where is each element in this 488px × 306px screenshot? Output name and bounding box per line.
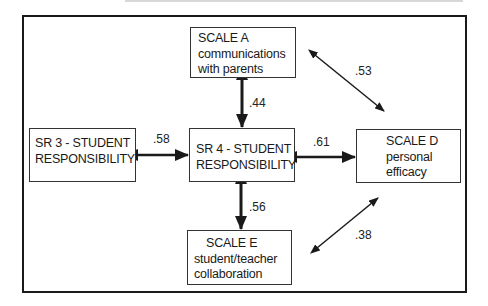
node-scale-d: SCALE D personal efficacy xyxy=(356,129,461,183)
edge-label-sr4-d: .61 xyxy=(313,135,330,149)
node-scale-a: SCALE A communications with parents xyxy=(190,27,296,78)
node-line: with parents xyxy=(198,62,295,78)
arrow-a-d xyxy=(315,55,384,111)
edge-label-e-d: .38 xyxy=(355,228,372,242)
edge-label-sr3-sr4: .58 xyxy=(153,132,170,146)
node-sr4: SR 4 - STUDENT RESPONSIBILITY xyxy=(189,128,295,182)
node-title: SCALE D xyxy=(386,134,460,150)
node-title: SCALE A xyxy=(198,31,295,47)
node-sr3: SR 3 - STUDENT RESPONSIBILITY xyxy=(29,128,136,182)
node-scale-e: SCALE E student/teacher collaboration xyxy=(187,230,292,285)
node-line: communications xyxy=(198,47,295,63)
node-line: collaboration xyxy=(194,267,291,283)
node-line: RESPONSIBILITY xyxy=(35,152,135,168)
node-title: SR 3 - STUDENT xyxy=(35,136,135,152)
edge-label-a-d: .53 xyxy=(355,64,372,78)
node-line: student/teacher xyxy=(194,252,291,268)
node-line: RESPONSIBILITY xyxy=(196,158,294,174)
node-title: SCALE E xyxy=(194,236,291,252)
node-line: efficacy xyxy=(386,165,460,181)
node-line: personal xyxy=(386,150,460,166)
edge-label-a-sr4: .44 xyxy=(249,96,266,110)
node-title: SR 4 - STUDENT xyxy=(196,142,294,158)
edge-label-sr4-e: .56 xyxy=(249,200,266,214)
